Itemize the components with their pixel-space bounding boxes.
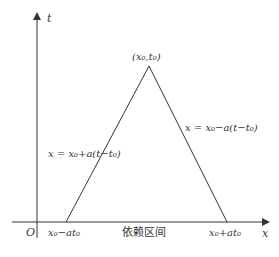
right-line-label: x = x₀−a(t−t₀) bbox=[185, 122, 258, 133]
left-endpoint-label: x₀−at₀ bbox=[48, 227, 80, 238]
origin-label: O bbox=[26, 226, 35, 239]
left-characteristic-line bbox=[66, 66, 149, 222]
dependence-interval-diagram: t x O (x₀,t₀) x = x₀+a(t−t₀) x = x₀−a(t−… bbox=[0, 0, 279, 257]
right-characteristic-line bbox=[149, 66, 227, 222]
left-line-label: x = x₀+a(t−t₀) bbox=[48, 148, 121, 159]
interval-label: 依赖区间 bbox=[122, 226, 166, 239]
x-axis-label: x bbox=[262, 227, 269, 240]
apex-label: (x₀,t₀) bbox=[132, 51, 161, 62]
right-endpoint-label: x₀+at₀ bbox=[209, 227, 241, 238]
t-axis-label: t bbox=[47, 12, 52, 25]
